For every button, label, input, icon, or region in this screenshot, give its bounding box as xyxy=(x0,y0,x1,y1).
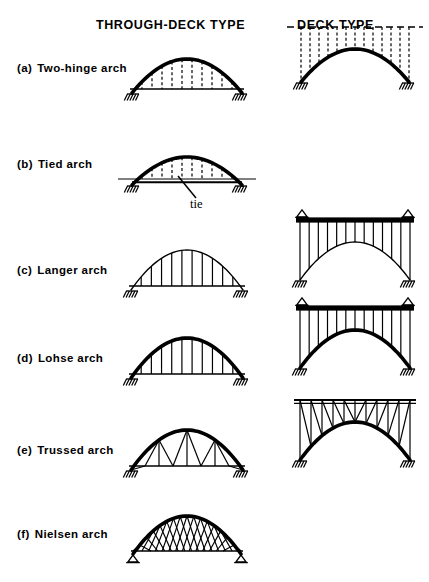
row-tag: (e) xyxy=(17,444,32,456)
through-deck-figure-f xyxy=(87,470,287,580)
row-name: Tied arch xyxy=(38,158,93,170)
arch-bridge-types-figure: THROUGH-DECK TYPE DECK TYPE (a)Two-hinge… xyxy=(0,0,429,582)
row-label-tied-arch: (b)Tied arch xyxy=(17,158,92,170)
row-tag: (a) xyxy=(17,62,32,74)
row-tag: (b) xyxy=(17,158,33,170)
row-tag: (c) xyxy=(17,264,32,276)
row-tag: (d) xyxy=(17,352,33,364)
tie-leader-line xyxy=(168,172,228,206)
row-tag: (f) xyxy=(17,528,30,540)
